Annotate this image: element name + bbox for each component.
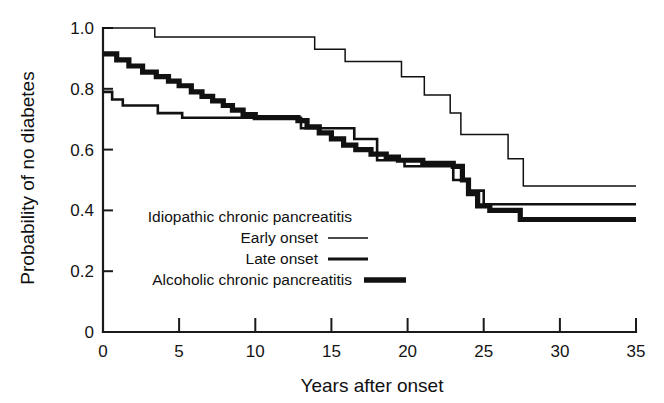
x-tick-label-25: 25: [474, 342, 493, 361]
curves: [103, 28, 636, 220]
figure-container: Probability of no diabetes Years after o…: [0, 0, 664, 403]
x-tick-label-10: 10: [246, 342, 265, 361]
legend-label-late-onset: Late onset: [246, 250, 319, 267]
x-tick-label-15: 15: [322, 342, 341, 361]
x-tick-label-20: 20: [398, 342, 417, 361]
y-tick-label-0_4: 0.4: [70, 201, 94, 220]
legend-label-alcoholic: Alcoholic chronic pancreatitis: [152, 271, 352, 288]
y-tick-labels: 1.0 0.8 0.6 0.4 0.2 0: [70, 19, 94, 342]
survival-curve-chart: Probability of no diabetes Years after o…: [0, 0, 664, 403]
curve-early-onset: [103, 28, 636, 186]
chart-legend: Idiopathic chronic pancreatitis Early on…: [148, 208, 406, 288]
curve-alcoholic: [103, 54, 636, 220]
y-ticks: [103, 28, 113, 332]
y-tick-label-0_8: 0.8: [70, 80, 94, 99]
y-tick-label-0_6: 0.6: [70, 141, 94, 160]
x-ticks: [103, 318, 636, 332]
y-tick-label-0_2: 0.2: [70, 262, 94, 281]
y-tick-label-1_0: 1.0: [70, 19, 94, 38]
y-axis-title: Probability of no diabetes: [17, 71, 38, 284]
x-axis-title: Years after onset: [301, 375, 445, 396]
x-tick-label-5: 5: [174, 342, 183, 361]
y-tick-label-0: 0: [85, 323, 94, 342]
x-tick-label-35: 35: [627, 342, 646, 361]
x-tick-label-0: 0: [98, 342, 107, 361]
legend-label-early-onset: Early onset: [240, 229, 318, 246]
x-tick-labels: 0 5 10 15 20 25 30 35: [98, 342, 645, 361]
legend-label-idiopathic: Idiopathic chronic pancreatitis: [148, 208, 352, 225]
x-tick-label-30: 30: [550, 342, 569, 361]
